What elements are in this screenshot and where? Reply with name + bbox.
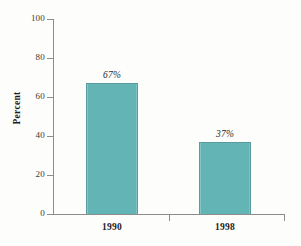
y-tick-mark-100 <box>47 19 53 20</box>
bar-1990 <box>86 83 138 214</box>
x-category-label-1990: 1990 <box>72 222 152 232</box>
bar-chart: 100 80 60 40 20 0 Percent 67% 37% 1990 1… <box>0 0 301 246</box>
y-tick-mark-40 <box>47 136 53 137</box>
x-tick-mark-end <box>284 215 285 221</box>
y-tick-label-20: 20 <box>11 169 45 179</box>
y-axis-ticks: 100 80 60 40 20 0 <box>0 0 54 246</box>
bar-value-1998: 37% <box>195 129 255 139</box>
y-tick-label-80: 80 <box>11 52 45 62</box>
y-tick-label-0: 0 <box>11 208 45 218</box>
y-tick-label-100: 100 <box>11 13 45 23</box>
x-category-label-1998: 1998 <box>185 222 265 232</box>
y-tick-mark-60 <box>47 97 53 98</box>
bar-value-1990: 67% <box>82 70 142 80</box>
y-tick-mark-0 <box>47 214 53 215</box>
y-tick-mark-80 <box>47 58 53 59</box>
x-tick-mark-middle <box>169 215 170 221</box>
y-tick-mark-20 <box>47 175 53 176</box>
bar-1998 <box>199 142 251 214</box>
y-axis-title: Percent <box>12 78 22 138</box>
